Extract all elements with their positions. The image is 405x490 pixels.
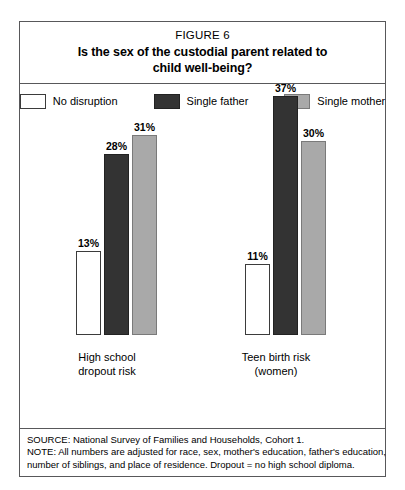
bar-value-label: 37% xyxy=(275,82,296,94)
chart-plot-area: 13% 28% 31% 11% 37% 30% xyxy=(20,118,385,428)
bar-value-label: 30% xyxy=(303,127,324,139)
axis-label-line-1: High school xyxy=(42,350,172,364)
chart-legend: No disruption Single father Single mothe… xyxy=(20,84,385,118)
bar-value-label: 28% xyxy=(106,140,127,152)
bar-single-mother-1: 30% xyxy=(301,127,326,335)
legend-label-single-father: Single father xyxy=(187,95,249,107)
axis-label-line-1: Teen birth risk xyxy=(211,350,341,364)
axis-label-line-2: dropout risk xyxy=(42,364,172,378)
bar-rect xyxy=(245,264,270,335)
bar-no-disruption-0: 13% xyxy=(76,237,101,335)
figure-panel: FIGURE 6 Is the sex of the custodial par… xyxy=(19,21,386,477)
figure-footnote: SOURCE: National Survey of Families and … xyxy=(20,428,385,477)
bar-value-label: 13% xyxy=(78,237,99,249)
bar-no-disruption-1: 11% xyxy=(245,250,270,335)
bar-value-label: 31% xyxy=(134,121,155,133)
figure-title-line-1: Is the sex of the custodial parent relat… xyxy=(30,44,375,60)
footnote-note-line-1: NOTE: All numbers are adjusted for race,… xyxy=(27,446,378,459)
bar-single-father-0: 28% xyxy=(104,140,129,335)
bar-group-teen-birth-risk: 11% 37% 30% xyxy=(245,65,326,335)
axis-label-high-school-dropout-risk: High school dropout risk xyxy=(42,350,172,378)
legend-swatch-single-father xyxy=(154,94,180,109)
bar-rect xyxy=(132,135,157,335)
footnote-note-line-2: number of siblings, and place of residen… xyxy=(27,459,378,472)
figure-title-block: FIGURE 6 Is the sex of the custodial par… xyxy=(20,22,385,84)
bar-rect xyxy=(76,251,101,335)
figure-number-label: FIGURE 6 xyxy=(30,28,375,43)
legend-swatch-no-disruption xyxy=(20,94,46,109)
legend-item-single-father: Single father xyxy=(154,94,249,109)
bar-single-father-1: 37% xyxy=(273,82,298,335)
bar-group-high-school-dropout-risk: 13% 28% 31% xyxy=(76,65,157,335)
footnote-source: SOURCE: National Survey of Families and … xyxy=(27,434,378,447)
axis-label-teen-birth-risk: Teen birth risk (women) xyxy=(211,350,341,378)
bar-single-mother-0: 31% xyxy=(132,121,157,335)
bar-rect xyxy=(301,141,326,335)
axis-label-line-2: (women) xyxy=(211,364,341,378)
legend-label-single-mother: Single mother xyxy=(317,95,385,107)
bar-value-label: 11% xyxy=(247,250,267,262)
bar-rect xyxy=(273,96,298,335)
bar-rect xyxy=(104,154,129,335)
